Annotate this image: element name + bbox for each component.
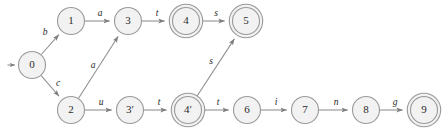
state-node-0[interactable]: 0 xyxy=(19,52,46,79)
state-label-9: 9 xyxy=(421,103,427,115)
automaton-diagram: 0123453′4′6789 bcatsautsting xyxy=(0,0,447,133)
state-label-3: 3 xyxy=(125,14,131,26)
state-label-1: 1 xyxy=(68,14,74,26)
edge-label-3-4: t xyxy=(156,8,159,18)
edge-label-3p-4p: t xyxy=(158,97,161,107)
edge-label-7-8: n xyxy=(334,97,339,107)
state-label-4: 4 xyxy=(183,14,189,26)
state-node-4p[interactable]: 4′ xyxy=(171,93,204,126)
state-node-8[interactable]: 8 xyxy=(353,97,380,124)
edge-label-2-3p: u xyxy=(99,97,104,107)
state-node-6[interactable]: 6 xyxy=(234,97,261,124)
edge-4p-to-5 xyxy=(196,39,235,98)
state-label-7: 7 xyxy=(302,103,308,115)
edge-label-8-9: g xyxy=(393,97,398,107)
edge-label-4p-6: t xyxy=(217,97,220,107)
edge-label-4-5: s xyxy=(214,8,218,18)
edge-label-0-2: c xyxy=(56,78,61,88)
nodes-layer: 0123453′4′6789 xyxy=(19,4,441,126)
state-label-5: 5 xyxy=(243,14,249,26)
state-node-3[interactable]: 3 xyxy=(115,8,142,35)
edge-label-6-7: i xyxy=(275,97,278,107)
state-label-2: 2 xyxy=(68,103,74,115)
edge-labels-layer: bcatsautsting xyxy=(43,8,398,107)
edge-label-4p-5: s xyxy=(209,56,213,66)
state-node-4[interactable]: 4 xyxy=(169,4,202,37)
edge-0-to-1 xyxy=(41,35,59,55)
state-label-4p: 4′ xyxy=(184,103,192,115)
state-label-0: 0 xyxy=(29,58,35,70)
state-label-6: 6 xyxy=(244,103,250,115)
state-label-3p: 3′ xyxy=(126,103,134,115)
edge-2-to-3 xyxy=(79,36,119,98)
state-node-7[interactable]: 7 xyxy=(292,97,319,124)
state-label-8: 8 xyxy=(363,103,369,115)
state-node-9[interactable]: 9 xyxy=(407,93,440,126)
state-node-2[interactable]: 2 xyxy=(58,97,85,124)
edges-layer xyxy=(41,21,403,110)
edge-label-1-3: a xyxy=(98,8,103,18)
edge-label-2-3: a xyxy=(91,60,96,70)
diagram-svg: 0123453′4′6789 bcatsautsting xyxy=(0,0,447,133)
edge-label-0-1: b xyxy=(43,27,48,37)
state-node-5[interactable]: 5 xyxy=(229,4,262,37)
state-node-1[interactable]: 1 xyxy=(58,8,85,35)
state-node-3p[interactable]: 3′ xyxy=(117,97,144,124)
